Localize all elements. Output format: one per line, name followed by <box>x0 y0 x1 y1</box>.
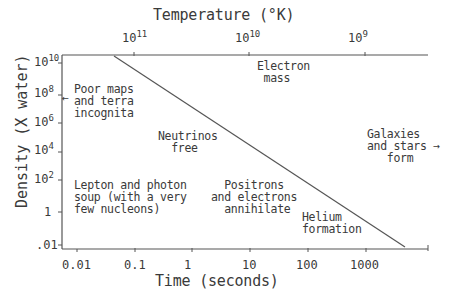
annotation-electron-mass: Electron mass <box>257 60 310 84</box>
y-axis-title: Density (X water) <box>13 54 31 208</box>
y-tick-1e10: 1010 <box>34 55 59 69</box>
top-tick-1e9: 109 <box>348 31 368 45</box>
top-tick-1e11: 1011 <box>122 31 147 45</box>
top-tick-1e10: 1010 <box>235 31 260 45</box>
x-tick-10: 10 <box>242 258 256 272</box>
x-tick-1: 1 <box>184 258 191 272</box>
y-tick-1e2: 102 <box>34 172 54 186</box>
annotation-galaxies-stars: Galaxies and stars → form <box>367 128 440 164</box>
annotation-positrons: Positrons and electrons annihilate <box>211 179 297 215</box>
annotation-poor-maps: Poor maps and terra incognita <box>74 83 134 119</box>
annotation-helium: Helium formation <box>302 211 362 235</box>
x-tick-0.1: 0.1 <box>124 258 146 272</box>
x-axis-title: Time (seconds) <box>155 272 279 290</box>
x-tick-1000: 1000 <box>350 258 379 272</box>
annotation-neutrinos-free: Neutrinos free <box>158 130 218 154</box>
arrow-left-icon: ← <box>62 92 69 104</box>
y-tick-1e4: 104 <box>34 143 54 157</box>
y-tick-1e6: 106 <box>34 115 54 129</box>
x-tick-100: 100 <box>296 258 318 272</box>
y-tick-1: 1 <box>44 205 51 219</box>
top-axis-title: Temperature (°K) <box>153 6 294 24</box>
x-tick-0.01: 0.01 <box>62 258 91 272</box>
y-tick-1e8: 108 <box>34 86 54 100</box>
y-tick-001: .01 <box>36 238 58 252</box>
annotation-lepton-soup: Lepton and photon soup (with a very few … <box>74 179 187 215</box>
